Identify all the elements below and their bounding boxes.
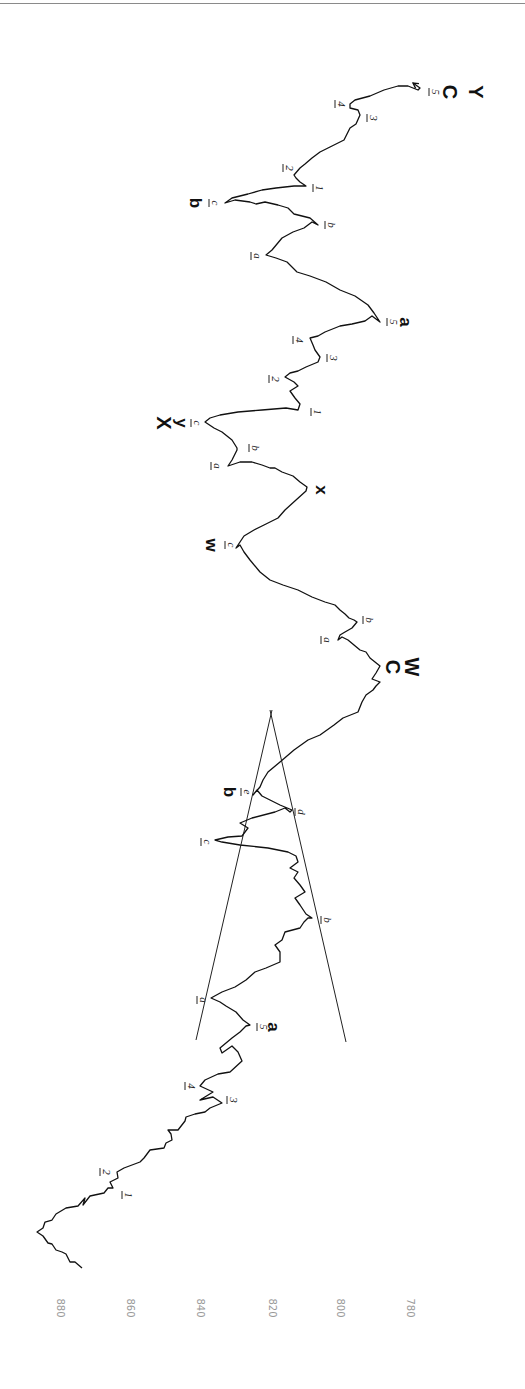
svg-text:b: b [186, 198, 205, 208]
svg-text:b: b [220, 787, 239, 797]
wave-label: b [321, 916, 334, 924]
elliott-wave-chart: 880860840820800780 12345aabcdebCWabcwxab… [0, 0, 525, 1389]
svg-text:e: e [242, 790, 254, 795]
axis-tick-label: 840 [195, 1298, 206, 1317]
svg-text:a: a [322, 637, 334, 643]
svg-text:2: 2 [284, 165, 296, 171]
price-axis-labels: 880860840820800780 [55, 1298, 416, 1317]
wave-labels: 12345aabcdebCWabcwxabcyX12345aabcb12345C… [100, 85, 487, 1199]
svg-text:a: a [252, 253, 264, 259]
svg-text:3: 3 [228, 1096, 240, 1103]
wave-label: 3 [227, 1096, 240, 1104]
svg-text:a: a [212, 463, 224, 469]
wave-label: 1 [122, 1191, 135, 1199]
wave-label: c [209, 199, 222, 207]
axis-tick-label: 880 [55, 1298, 66, 1317]
wave-label: C [439, 85, 461, 99]
svg-text:b: b [250, 445, 262, 451]
svg-text:3: 3 [328, 354, 340, 361]
axis-tick-label: 800 [335, 1298, 346, 1317]
wave-label: b [220, 787, 239, 797]
wave-label: d [295, 808, 308, 816]
wave-label: 4 [293, 336, 306, 344]
axis-tick-label: 820 [267, 1298, 278, 1317]
svg-text:X: X [153, 416, 175, 430]
wave-label: a [264, 1022, 283, 1032]
wave-label: a [321, 636, 334, 644]
wave-label: C [382, 660, 404, 674]
triangle-lower-line [270, 710, 346, 1042]
wave-label: a [197, 996, 210, 1004]
wave-label: c [201, 838, 214, 846]
svg-text:1: 1 [314, 185, 326, 191]
wave-label: w [202, 537, 221, 552]
wave-label: 3 [327, 354, 340, 362]
wave-label: W [401, 658, 423, 677]
triangle-upper-line [196, 710, 272, 1040]
wave-label: 2 [283, 164, 296, 172]
wave-label: b [325, 221, 338, 229]
wave-label: a [211, 462, 224, 470]
svg-text:b: b [322, 917, 334, 923]
svg-text:a: a [396, 317, 415, 327]
svg-text:1: 1 [312, 409, 324, 415]
svg-text:3: 3 [368, 114, 380, 121]
svg-text:2: 2 [101, 1169, 113, 1175]
wave-label: 2 [269, 375, 282, 383]
wave-label: 1 [313, 184, 326, 192]
svg-text:4: 4 [336, 101, 348, 107]
svg-text:4: 4 [294, 337, 306, 343]
svg-text:c: c [192, 421, 204, 426]
svg-text:w: w [202, 537, 221, 552]
wave-label: b [186, 198, 205, 208]
wave-label: X [153, 416, 175, 430]
wave-label: 2 [100, 1168, 113, 1176]
svg-text:C: C [439, 85, 461, 99]
svg-text:1: 1 [123, 1192, 135, 1198]
wave-label: Y [465, 85, 487, 99]
svg-text:c: c [226, 543, 238, 548]
svg-text:d: d [296, 809, 308, 815]
svg-text:4: 4 [186, 1083, 198, 1089]
wave-label: a [251, 252, 264, 260]
wave-label: c [191, 419, 204, 427]
svg-text:C: C [382, 660, 404, 674]
wave-label: 1 [311, 408, 324, 416]
wave-label: 3 [367, 114, 380, 122]
wave-label: b [249, 444, 262, 452]
price-line [37, 83, 420, 1268]
wave-label: a [396, 317, 415, 327]
wave-label: 4 [335, 100, 348, 108]
axis-tick-label: 860 [125, 1298, 136, 1317]
wave-label: 4 [185, 1082, 198, 1090]
svg-text:W: W [401, 658, 423, 677]
svg-text:a: a [198, 997, 210, 1003]
wave-label: x [312, 485, 331, 495]
svg-text:Y: Y [465, 85, 487, 99]
svg-text:c: c [202, 840, 214, 845]
wave-label: b [363, 616, 376, 624]
triangle-trendlines [196, 710, 346, 1042]
svg-text:x: x [312, 485, 331, 495]
svg-text:a: a [264, 1022, 283, 1032]
svg-text:c: c [210, 201, 222, 206]
svg-text:b: b [326, 222, 338, 228]
axis-tick-label: 780 [405, 1298, 416, 1317]
svg-text:2: 2 [270, 376, 282, 382]
svg-text:b: b [364, 617, 376, 623]
